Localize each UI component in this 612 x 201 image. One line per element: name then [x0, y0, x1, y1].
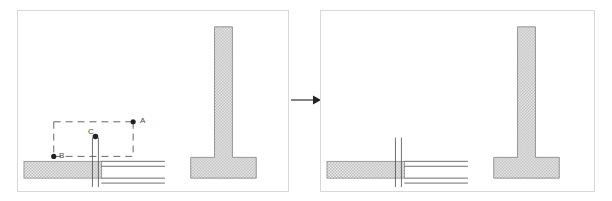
before-panel: A B C: [17, 10, 289, 192]
hatched-ground-slab: [327, 161, 404, 178]
t-shaped-wall-footing: [191, 27, 257, 178]
pipe-horizontal-lines: [404, 161, 468, 183]
node-label-c: C: [88, 128, 94, 136]
node-a-dot: [131, 119, 136, 124]
after-panel-canvas: [321, 11, 594, 191]
before-panel-canvas: [18, 11, 288, 191]
after-panel: [320, 10, 595, 192]
hatched-ground-slab: [24, 161, 101, 178]
node-label-b: B: [59, 152, 64, 160]
t-shaped-wall-footing: [494, 27, 560, 178]
figure-root: A B C: [0, 0, 612, 201]
node-b-dot: [51, 154, 56, 159]
arrow-right-icon: [291, 94, 321, 106]
node-label-a: A: [140, 117, 145, 125]
pipe-horizontal-lines: [101, 161, 165, 183]
